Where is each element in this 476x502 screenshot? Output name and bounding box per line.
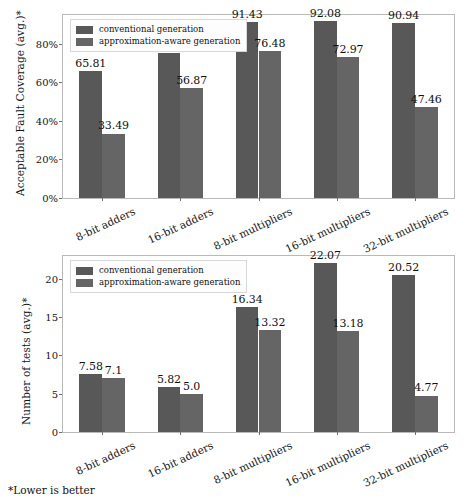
- y-tick-mark: [59, 279, 62, 280]
- legend-swatch-approximation-aware: [76, 38, 93, 46]
- y-tick-mark: [59, 355, 62, 356]
- bar-conventional[interactable]: [79, 71, 102, 198]
- y-tick-label: 15: [22, 312, 58, 323]
- bar-approximation-aware[interactable]: [180, 394, 203, 432]
- legend-item-approximation-aware: approximation-aware generation: [76, 277, 240, 288]
- y-tick-label: 0%: [22, 193, 58, 204]
- bar-approximation-aware[interactable]: [102, 378, 125, 432]
- bar-conventional[interactable]: [314, 263, 337, 432]
- bar-value-label: 20.52: [388, 261, 419, 274]
- x-tick-mark: [102, 198, 103, 201]
- y-tick-mark: [59, 317, 62, 318]
- bar-value-label: 7.1: [105, 364, 122, 377]
- bar-value-label: 72.97: [333, 43, 364, 56]
- bar-conventional[interactable]: [158, 387, 181, 432]
- y-tick-label: 40%: [22, 115, 58, 126]
- bar-value-label: 92.08: [310, 7, 341, 20]
- x-tick-mark: [337, 198, 338, 201]
- bar-value-label: 33.49: [98, 119, 129, 132]
- y-tick-mark: [59, 159, 62, 160]
- legend-label-conventional: conventional generation: [99, 25, 204, 34]
- bar-conventional[interactable]: [79, 374, 102, 432]
- bar-value-label: 5.82: [157, 373, 181, 386]
- y-tick-label: 10: [22, 350, 58, 361]
- x-tick-mark: [337, 432, 338, 435]
- bar-approximation-aware[interactable]: [259, 51, 282, 198]
- bar-approximation-aware[interactable]: [259, 330, 282, 432]
- x-tick-mark: [259, 432, 260, 435]
- bar-value-label: 47.46: [411, 93, 442, 106]
- bar-value-label: 56.87: [176, 74, 207, 87]
- figure: Acceptable Fault Coverage (avg.)* 65.813…: [0, 0, 476, 502]
- x-tick-mark: [180, 198, 181, 201]
- bar-value-label: 13.32: [254, 316, 285, 329]
- legend-bottom: conventional generation approximation-aw…: [70, 260, 247, 293]
- legend-top: conventional generation approximation-aw…: [70, 19, 247, 52]
- legend-label-conventional: conventional generation: [99, 266, 204, 275]
- y-tick-mark: [59, 121, 62, 122]
- y-tick-label: 20: [22, 273, 58, 284]
- bar-conventional[interactable]: [392, 23, 415, 198]
- chart-panel-acceptable-fault-coverage: Acceptable Fault Coverage (avg.)* 65.813…: [0, 0, 476, 240]
- y-tick-mark: [59, 198, 62, 199]
- legend-swatch-approximation-aware: [76, 279, 93, 287]
- legend-item-conventional: conventional generation: [76, 24, 240, 35]
- legend-swatch-conventional: [76, 26, 93, 34]
- chart-panel-number-of-tests: Number of tests (avg.)* 7.587.15.825.016…: [0, 245, 476, 480]
- legend-label-approximation-aware: approximation-aware generation: [99, 278, 240, 287]
- bar-value-label: 7.58: [79, 360, 103, 373]
- bar-approximation-aware[interactable]: [102, 134, 125, 199]
- y-tick-label: 0: [22, 427, 58, 438]
- bar-conventional[interactable]: [392, 275, 415, 432]
- bar-value-label: 13.18: [333, 317, 364, 330]
- y-tick-mark: [59, 432, 62, 433]
- x-tick-mark: [415, 432, 416, 435]
- bar-value-label: 90.94: [388, 9, 419, 22]
- bar-approximation-aware[interactable]: [337, 57, 360, 198]
- y-tick-mark: [59, 394, 62, 395]
- y-tick-label: 60%: [22, 77, 58, 88]
- bar-value-label: 76.48: [254, 37, 285, 50]
- bar-approximation-aware[interactable]: [415, 107, 438, 198]
- bar-value-label: 65.81: [75, 57, 106, 70]
- bar-value-label: 5.0: [183, 380, 200, 393]
- bar-approximation-aware[interactable]: [415, 396, 438, 433]
- legend-item-approximation-aware: approximation-aware generation: [76, 36, 240, 47]
- bar-approximation-aware[interactable]: [337, 331, 360, 432]
- bar-value-label: 16.34: [232, 293, 263, 306]
- y-tick-mark: [59, 82, 62, 83]
- x-tick-mark: [102, 432, 103, 435]
- y-tick-label: 20%: [22, 154, 58, 165]
- x-tick-mark: [259, 198, 260, 201]
- y-tick-mark: [59, 44, 62, 45]
- bar-value-label: 4.77: [414, 381, 438, 394]
- x-tick-mark: [180, 432, 181, 435]
- legend-item-conventional: conventional generation: [76, 265, 240, 276]
- bar-value-label: 22.07: [310, 249, 341, 262]
- footnote-lower-is-better: *Lower is better: [8, 484, 95, 496]
- legend-label-approximation-aware: approximation-aware generation: [99, 37, 240, 46]
- bar-approximation-aware[interactable]: [180, 88, 203, 198]
- legend-swatch-conventional: [76, 267, 93, 275]
- y-tick-label: 5: [22, 388, 58, 399]
- y-tick-label: 80%: [22, 38, 58, 49]
- x-tick-mark: [415, 198, 416, 201]
